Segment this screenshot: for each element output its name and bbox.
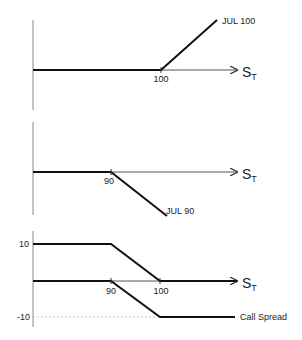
call-spread-line xyxy=(33,281,235,317)
upper-payoff-line xyxy=(33,244,237,281)
strike-label-90: 90 xyxy=(106,286,116,296)
strike-label: 90 xyxy=(104,176,114,186)
payoff-diagram: 100 JUL 100 ST 90 JUL 90 ST 90 100 10 -1… xyxy=(0,0,302,340)
panel-jul-90: 90 JUL 90 ST xyxy=(33,122,257,216)
axis-label: ST xyxy=(242,275,257,293)
strike-label: 100 xyxy=(153,74,168,84)
payoff-label: JUL 100 xyxy=(222,16,255,26)
strike-label-100: 100 xyxy=(153,286,168,296)
payoff-line xyxy=(33,20,217,70)
axis-label: ST xyxy=(242,166,257,184)
payoff-line xyxy=(33,172,167,216)
y-label-minus-10: -10 xyxy=(17,312,30,322)
panel-jul-100: 100 JUL 100 ST xyxy=(33,16,257,110)
payoff-label: Call Spread xyxy=(240,312,287,322)
payoff-label: JUL 90 xyxy=(166,206,194,216)
y-label-10: 10 xyxy=(19,239,29,249)
axis-label: ST xyxy=(242,64,257,82)
panel-call-spread: 90 100 10 -10 Call Spread ST xyxy=(17,231,287,327)
